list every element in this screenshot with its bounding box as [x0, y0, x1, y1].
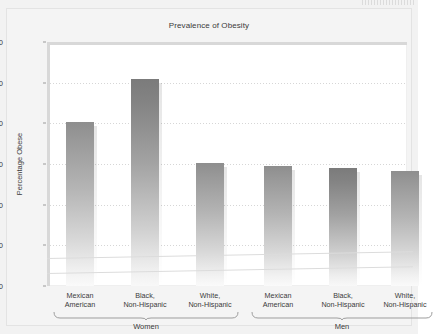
category-label-1: Black,Non-Hispanic	[123, 291, 166, 309]
y-tick-mark-10	[43, 245, 46, 246]
clipped-text-artifact	[362, 0, 416, 5]
y-tick-label-40: 40	[0, 119, 3, 128]
category-label-2: White,Non-Hispanic	[188, 291, 231, 309]
group-label-women: Women	[133, 322, 159, 331]
y-tick-label-20: 20	[0, 200, 3, 209]
y-tick-label-30: 30	[0, 160, 3, 169]
y-tick-label-0: 0	[0, 282, 3, 291]
category-label-4: Black,Non-Hispanic	[321, 291, 364, 309]
category-label-line2: Non-Hispanic	[188, 300, 231, 309]
group-brace-men	[251, 312, 433, 319]
category-label-line1: Black,	[321, 291, 364, 300]
y-tick-mark-50	[43, 82, 46, 83]
bar-5	[391, 171, 419, 286]
y-tick-mark-30	[43, 164, 46, 165]
group-brace-women	[53, 312, 239, 319]
bar-2	[196, 163, 224, 286]
y-tick-mark-40	[43, 123, 46, 124]
category-label-line1: Mexican	[263, 291, 293, 300]
category-label-3: MexicanAmerican	[263, 291, 293, 309]
bar-series	[47, 42, 407, 286]
y-tick-mark-60	[43, 42, 46, 43]
chart-title: Prevalence of Obesity	[7, 21, 411, 30]
y-tick-label-50: 50	[0, 78, 3, 87]
y-tick-mark-20	[43, 204, 46, 205]
group-label-men: Men	[335, 322, 350, 331]
y-tick-mark-0	[43, 286, 46, 287]
bar-1	[131, 79, 159, 286]
category-label-5: White,Non-Hispanic	[383, 291, 426, 309]
y-tick-label-60: 60	[0, 38, 3, 47]
category-label-line2: Non-Hispanic	[123, 300, 166, 309]
plot-wrapper: Percentage Obese 6050403020100	[47, 42, 407, 286]
category-label-line1: White,	[383, 291, 426, 300]
category-label-line2: Non-Hispanic	[321, 300, 364, 309]
category-label-0: MexicanAmerican	[65, 291, 95, 309]
y-axis-title: Percentage Obese	[15, 133, 24, 196]
y-tick-label-10: 10	[0, 241, 3, 250]
category-label-line1: White,	[188, 291, 231, 300]
category-label-line2: American	[263, 300, 293, 309]
category-label-line1: Black,	[123, 291, 166, 300]
category-label-line2: Non-Hispanic	[383, 300, 426, 309]
chart-card: Prevalence of Obesity Percentage Obese 6…	[6, 8, 412, 326]
bar-0	[66, 122, 94, 286]
category-label-line1: Mexican	[65, 291, 95, 300]
category-label-line2: American	[65, 300, 95, 309]
